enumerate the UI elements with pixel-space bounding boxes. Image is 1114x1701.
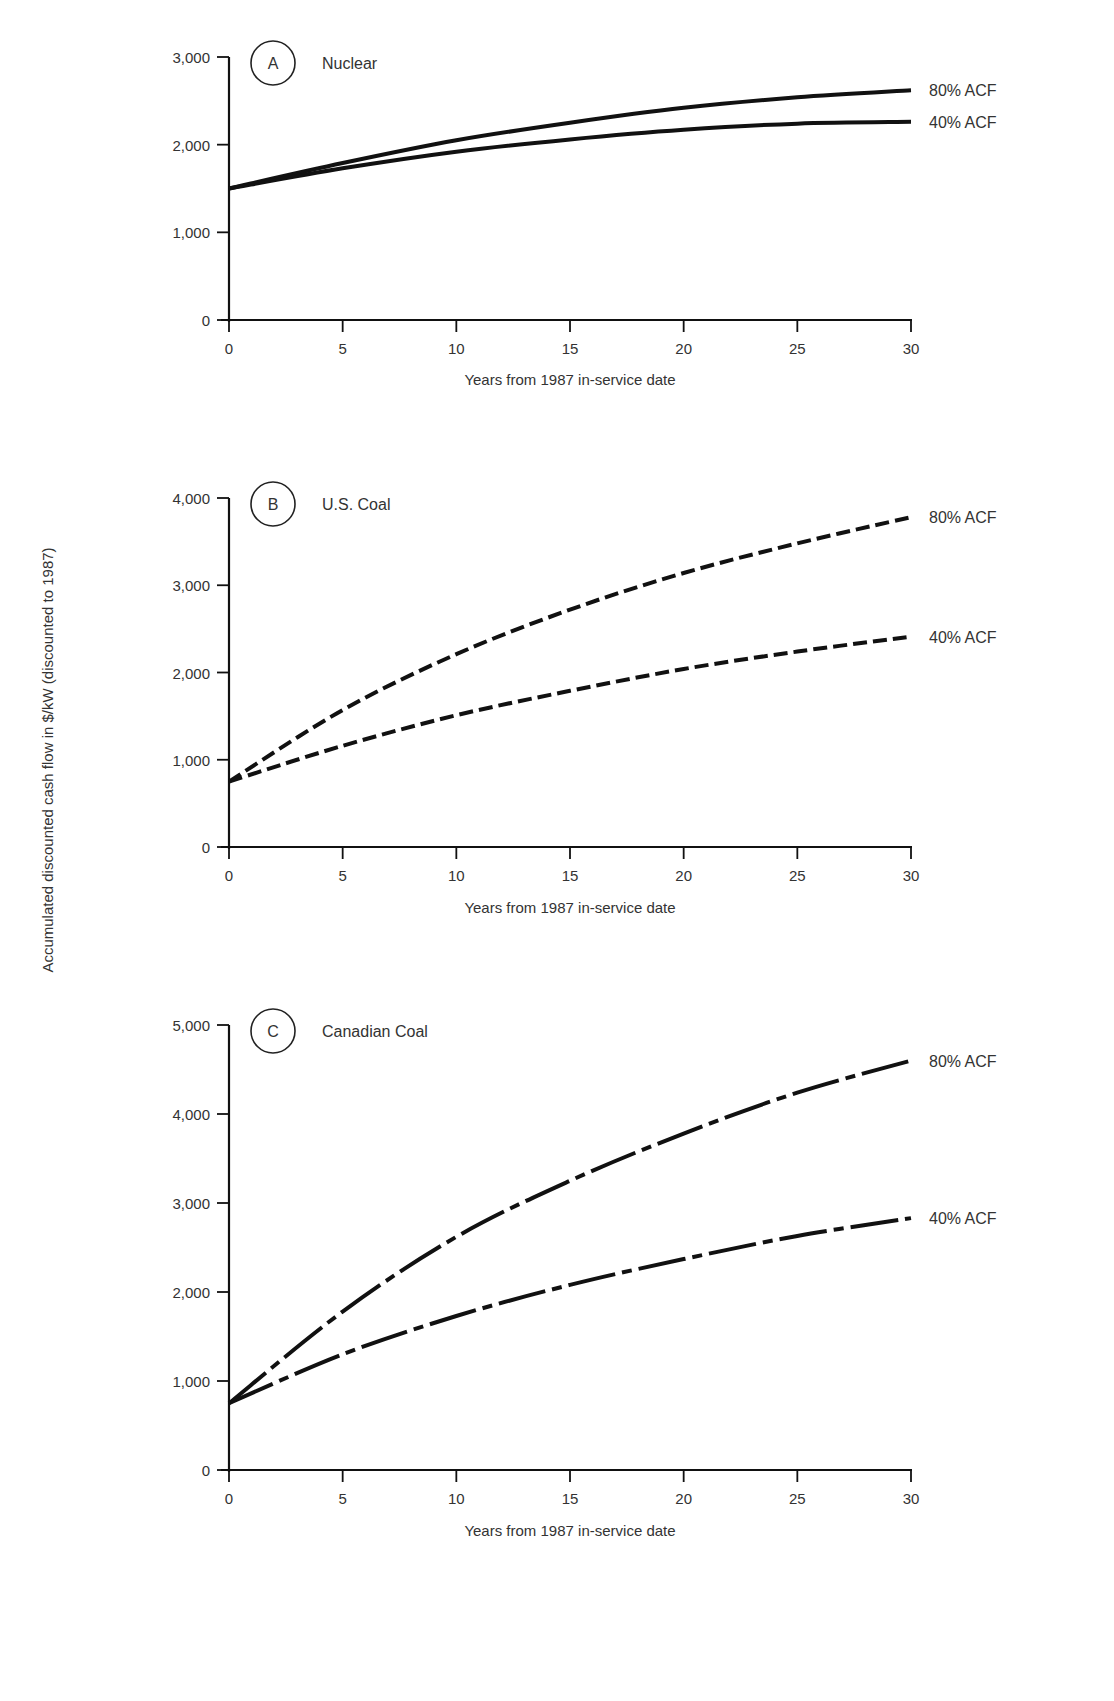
x-tick-label: 10 [448, 867, 465, 884]
y-tick-label: 1,000 [172, 224, 210, 241]
x-tick-label: 25 [789, 340, 806, 357]
y-tick-label: 2,000 [172, 665, 210, 682]
x-tick-label: 5 [338, 867, 346, 884]
y-tick-label: 2,000 [172, 137, 210, 154]
x-tick-label: 20 [675, 1490, 692, 1507]
panel-b: 01,0002,0003,0004,000051015202530Years f… [172, 482, 996, 916]
x-tick-label: 0 [225, 867, 233, 884]
x-tick-label: 0 [225, 1490, 233, 1507]
panel-badge-letter: B [268, 496, 279, 513]
x-axis-title: Years from 1987 in-service date [464, 371, 675, 388]
y-tick-label: 0 [202, 839, 210, 856]
y-tick-label: 4,000 [172, 490, 210, 507]
series-label-40-acf: 40% ACF [929, 629, 997, 646]
x-tick-label: 10 [448, 340, 465, 357]
series-label-40-acf: 40% ACF [929, 114, 997, 131]
x-tick-label: 15 [562, 867, 579, 884]
x-tick-label: 10 [448, 1490, 465, 1507]
panel-a: 01,0002,0003,000051015202530Years from 1… [172, 41, 996, 388]
x-tick-label: 30 [903, 1490, 920, 1507]
panel-title: U.S. Coal [322, 496, 390, 513]
x-axis-title: Years from 1987 in-service date [464, 899, 675, 916]
x-tick-label: 25 [789, 867, 806, 884]
panel-c: 01,0002,0003,0004,0005,000051015202530Ye… [172, 1009, 996, 1539]
y-axis-title: Accumulated discounted cash flow in $/kW… [39, 547, 56, 972]
series-label-80-acf: 80% ACF [929, 509, 997, 526]
series-label-40-acf: 40% ACF [929, 1210, 997, 1227]
x-tick-label: 20 [675, 340, 692, 357]
series-line-40-acf [229, 637, 911, 782]
x-tick-label: 0 [225, 340, 233, 357]
series-line-40-acf [229, 1218, 911, 1403]
y-tick-label: 3,000 [172, 49, 210, 66]
x-tick-label: 5 [338, 340, 346, 357]
y-tick-label: 0 [202, 312, 210, 329]
x-tick-label: 30 [903, 867, 920, 884]
figure: Accumulated discounted cash flow in $/kW… [0, 0, 1114, 1701]
y-tick-label: 3,000 [172, 1195, 210, 1212]
panel-title: Nuclear [322, 55, 378, 72]
y-tick-label: 2,000 [172, 1284, 210, 1301]
y-tick-label: 1,000 [172, 1373, 210, 1390]
series-line-40-acf [229, 122, 911, 189]
x-tick-label: 15 [562, 1490, 579, 1507]
series-label-80-acf: 80% ACF [929, 1053, 997, 1070]
y-tick-label: 3,000 [172, 577, 210, 594]
x-tick-label: 25 [789, 1490, 806, 1507]
y-tick-label: 1,000 [172, 752, 210, 769]
x-tick-label: 15 [562, 340, 579, 357]
y-tick-label: 5,000 [172, 1017, 210, 1034]
panel-title: Canadian Coal [322, 1023, 428, 1040]
panel-badge-letter: C [267, 1023, 279, 1040]
x-tick-label: 20 [675, 867, 692, 884]
y-tick-label: 0 [202, 1462, 210, 1479]
x-axis-title: Years from 1987 in-service date [464, 1522, 675, 1539]
series-label-80-acf: 80% ACF [929, 82, 997, 99]
x-tick-label: 5 [338, 1490, 346, 1507]
series-line-80-acf [229, 517, 911, 781]
x-tick-label: 30 [903, 340, 920, 357]
y-tick-label: 4,000 [172, 1106, 210, 1123]
panel-badge-letter: A [268, 55, 279, 72]
